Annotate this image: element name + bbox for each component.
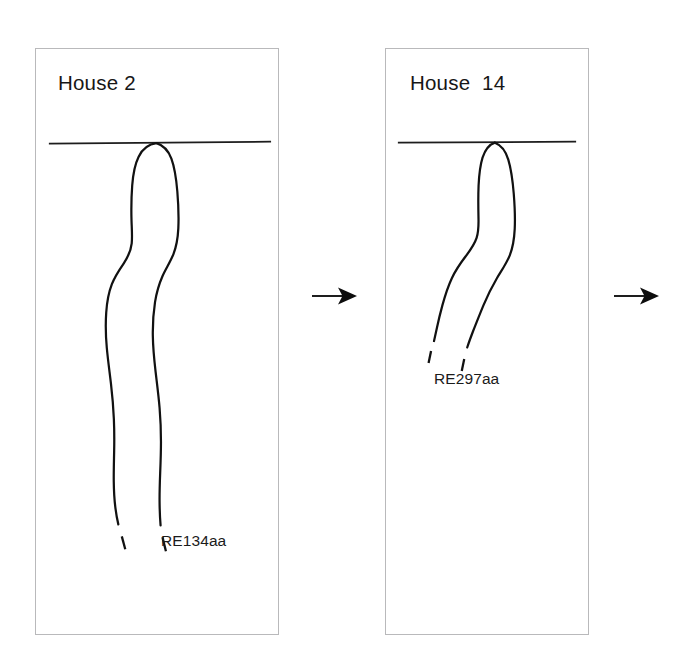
rim-datum-line-house-14 [398, 142, 576, 143]
profile-outer-wall-house-2 [153, 143, 179, 525]
arrow-right-icon-2 [612, 282, 662, 310]
profile-break-tick-left-house-2 [122, 536, 125, 549]
figure-canvas: House 2 RE134aa House 14 [0, 0, 680, 666]
panel-house-2: House 2 RE134aa [35, 48, 279, 635]
profile-inner-wall-house-2 [106, 143, 157, 524]
panel-house-14: House 14 RE297aa [385, 48, 589, 635]
vessel-profile-house-14 [386, 49, 588, 634]
vessel-profile-house-2 [36, 49, 278, 634]
arrow-right-icon-1 [310, 282, 360, 310]
sherd-label-re134aa: RE134aa [161, 533, 226, 549]
sherd-label-re297aa: RE297aa [434, 371, 499, 387]
profile-inner-wall-house-14 [434, 143, 495, 341]
profile-break-tick-left-house-14 [429, 351, 431, 363]
